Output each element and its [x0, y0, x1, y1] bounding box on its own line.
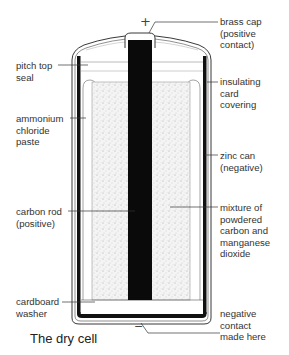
negative-terminal-symbol: − [134, 320, 143, 333]
label-mixture: mixture of powdered carbon and manganese… [220, 202, 270, 260]
label-ammonium-chloride: ammonium chloride paste [16, 113, 63, 148]
label-pitch-top-seal: pitch top seal [16, 60, 52, 83]
figure-caption: The dry cell [30, 331, 97, 346]
label-carbon-rod: carbon rod (positive) [16, 206, 62, 229]
label-cardboard-washer: cardboard washer [16, 296, 59, 319]
label-brass-cap: brass cap (positive contact) [220, 16, 262, 51]
positive-terminal-symbol: + [140, 14, 151, 29]
carbon-rod [128, 40, 152, 300]
label-zinc-can: zinc can (negative) [220, 150, 263, 173]
label-insulating-card: insulating card covering [220, 76, 261, 111]
label-negative-contact: negative contact made here [220, 308, 266, 343]
